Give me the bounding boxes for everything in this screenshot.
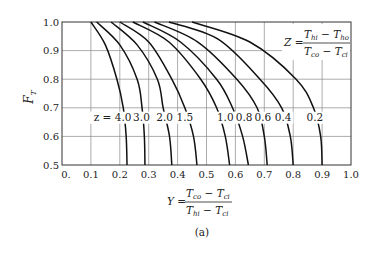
x-tick-label: 0.1 bbox=[83, 169, 99, 180]
x-tick-label: 1.0 bbox=[343, 169, 359, 180]
x-tick-label: 0.9 bbox=[314, 169, 330, 180]
y-tick-label: 0.6 bbox=[43, 131, 59, 142]
y-tick-label: 0.5 bbox=[43, 160, 59, 171]
curve-z-1.5 bbox=[120, 22, 197, 165]
curve-label: 0.4 bbox=[275, 111, 292, 123]
curve-label: 1.0 bbox=[217, 111, 234, 123]
y-tick-label: 0.7 bbox=[43, 102, 59, 113]
curve-label: 0.6 bbox=[255, 111, 272, 123]
svg-text:Thi − Tci: Thi − Tci bbox=[186, 204, 228, 218]
curve-label: 2.0 bbox=[156, 111, 173, 123]
y-tick-label: 0.9 bbox=[43, 45, 59, 56]
curve-label: 0.2 bbox=[307, 111, 324, 123]
x-tick-label: 0.2 bbox=[112, 169, 128, 180]
y-tick-labels: 0.50.60.70.80.91.0 bbox=[43, 17, 59, 171]
ft-correction-factor-chart: z = 4.03.02.01.51.00.80.60.40.2 0.0.10.2… bbox=[0, 0, 384, 253]
x-tick-label: 0.6 bbox=[227, 169, 243, 180]
svg-text:Tco − Tci: Tco − Tci bbox=[304, 45, 348, 59]
curve-label: z = 4.0 bbox=[94, 111, 132, 123]
curve-label: 0.8 bbox=[236, 111, 253, 123]
svg-text:FT: FT bbox=[22, 90, 38, 105]
curve-label: 3.0 bbox=[133, 111, 150, 123]
svg-text:Tco − Tci: Tco − Tci bbox=[186, 187, 230, 201]
curve-label: 1.5 bbox=[176, 111, 193, 123]
x-tick-label: 0.8 bbox=[285, 169, 301, 180]
svg-text:Z =: Z = bbox=[283, 36, 303, 48]
x-tick-labels: 0.0.10.20.30.40.50.60.70.80.91.0 bbox=[61, 169, 359, 180]
y-axis-label: FT bbox=[22, 90, 38, 105]
x-axis-label: Y = Tco − Tci Thi − Tci bbox=[167, 187, 232, 218]
x-tick-label: 0.5 bbox=[199, 169, 215, 180]
curve-labels: z = 4.03.02.01.51.00.80.60.40.2 bbox=[90, 111, 325, 124]
y-tick-label: 1.0 bbox=[43, 17, 59, 28]
x-tick-label: 0. bbox=[61, 169, 71, 180]
curve-z-4.0 bbox=[91, 22, 127, 165]
y-tick-label: 0.8 bbox=[43, 74, 59, 85]
curve-z-0.8 bbox=[143, 22, 248, 165]
svg-text:Y =: Y = bbox=[167, 195, 186, 207]
figure-caption: (a) bbox=[195, 226, 209, 238]
curve-z-0.4 bbox=[169, 22, 293, 165]
x-tick-label: 0.3 bbox=[141, 169, 157, 180]
z-formula: Z = Thi − Tho Tco − Tci bbox=[282, 24, 350, 60]
x-tick-label: 0.4 bbox=[170, 169, 186, 180]
x-tick-label: 0.7 bbox=[256, 169, 272, 180]
